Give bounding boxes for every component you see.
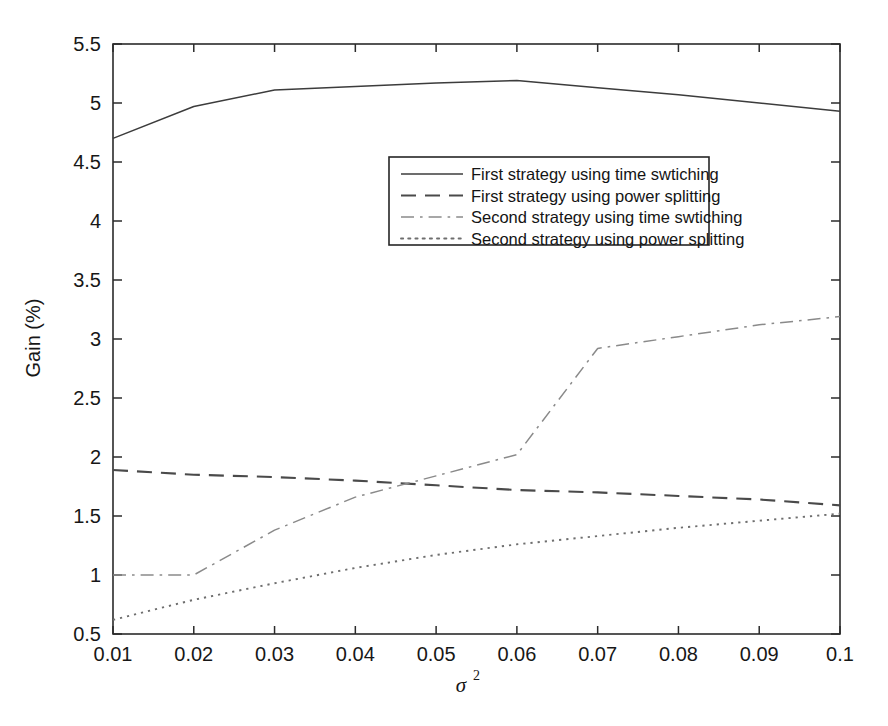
- chart-background: [0, 0, 888, 726]
- x-tick-label: 0.06: [497, 643, 536, 665]
- y-tick-label: 3: [90, 328, 101, 350]
- x-axis-title-symbol: σ: [456, 673, 468, 697]
- legend-label-2: Second strategy using time swtiching: [471, 208, 742, 226]
- x-tick-label: 0.04: [336, 643, 375, 665]
- y-axis-title-text: Gain (%): [22, 299, 44, 378]
- x-tick-label: 0.01: [94, 643, 133, 665]
- y-tick-label: 2.5: [73, 387, 101, 409]
- y-axis-title: Gain (%): [22, 299, 44, 378]
- y-tick-label: 1: [90, 564, 101, 586]
- x-tick-label: 0.03: [255, 643, 294, 665]
- x-tick-label: 0.08: [659, 643, 698, 665]
- legend-label-3: Second strategy using power splitting: [471, 230, 744, 248]
- x-axis-title-exponent: 2: [473, 668, 480, 683]
- y-tick-label: 1.5: [73, 505, 101, 527]
- line-chart: 0.010.020.030.040.050.060.070.080.090.1 …: [0, 0, 888, 726]
- y-tick-label: 5.5: [73, 33, 101, 55]
- x-tick-label: 0.07: [578, 643, 617, 665]
- y-tick-label: 4.5: [73, 151, 101, 173]
- legend-label-0: First strategy using time swtiching: [471, 165, 719, 183]
- legend-label-1: First strategy using power splitting: [471, 187, 720, 205]
- x-tick-label: 0.1: [826, 643, 854, 665]
- x-tick-label: 0.05: [417, 643, 456, 665]
- y-tick-label: 2: [90, 446, 101, 468]
- y-tick-label: 3.5: [73, 269, 101, 291]
- y-tick-label: 0.5: [73, 623, 101, 645]
- y-tick-label: 5: [90, 92, 101, 114]
- y-tick-label: 4: [90, 210, 101, 232]
- legend: First strategy using time swtichingFirst…: [389, 157, 744, 248]
- x-tick-label: 0.02: [174, 643, 213, 665]
- figure-container: 0.010.020.030.040.050.060.070.080.090.1 …: [0, 0, 888, 726]
- x-tick-label: 0.09: [740, 643, 779, 665]
